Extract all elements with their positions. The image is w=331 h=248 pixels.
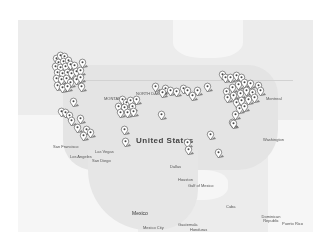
label-dominican-republic: Dominican Republic xyxy=(258,215,284,223)
label-las-vegas: Las Vegas xyxy=(95,150,114,154)
label-montreal: Montreal xyxy=(266,97,282,101)
map-marker-pin-icon[interactable] xyxy=(64,83,71,92)
map-marker-pin-icon[interactable] xyxy=(77,115,84,124)
label-puerto-rico: Puerto Rico xyxy=(282,222,303,226)
map-marker-pin-icon[interactable] xyxy=(78,83,85,92)
label-houston: Houston xyxy=(178,178,193,182)
map-marker-pin-icon[interactable] xyxy=(77,74,84,83)
map-marker-pin-icon[interactable] xyxy=(185,146,192,155)
map-marker-pin-icon[interactable] xyxy=(158,111,165,120)
border-line xyxy=(63,80,293,81)
label-mexico-city: Mexico City xyxy=(143,226,164,230)
map-marker-pin-icon[interactable] xyxy=(230,120,237,129)
map-marker-pin-icon[interactable] xyxy=(122,138,129,147)
map-marker-pin-icon[interactable] xyxy=(241,103,248,112)
map-marker-pin-icon[interactable] xyxy=(87,129,94,138)
label-san-diego: San Diego xyxy=(92,159,111,163)
label-mexico: Mexico xyxy=(132,211,148,216)
map-marker-pin-icon[interactable] xyxy=(152,83,159,92)
map-marker-pin-icon[interactable] xyxy=(173,88,180,97)
map-marker-pin-icon[interactable] xyxy=(130,108,137,117)
map-marker-pin-icon[interactable] xyxy=(215,149,222,158)
label-gulf-of-mexico: Gulf of Mexico xyxy=(188,184,214,188)
map-marker-pin-icon[interactable] xyxy=(251,94,258,103)
map-marker-pin-icon[interactable] xyxy=(194,87,201,96)
map-marker-pin-icon[interactable] xyxy=(207,131,214,140)
map-marker-pin-icon[interactable] xyxy=(70,98,77,107)
map-marker-pin-icon[interactable] xyxy=(133,96,140,105)
hudson-bay xyxy=(173,20,243,58)
map-marker-pin-icon[interactable] xyxy=(121,126,128,135)
label-washington: Washington xyxy=(263,138,284,142)
map-marker-pin-icon[interactable] xyxy=(257,87,264,96)
label-cuba: Cuba xyxy=(226,205,236,209)
map-marker-pin-icon[interactable] xyxy=(204,83,211,92)
label-dallas: Dallas xyxy=(170,165,181,169)
label-san-francisco: San Francisco xyxy=(53,145,79,149)
map-marker-pin-icon[interactable] xyxy=(159,89,166,98)
map-marker-pin-icon[interactable] xyxy=(80,132,87,141)
label-honduras: Honduras xyxy=(190,228,207,232)
label-los-angeles: Los Angeles xyxy=(70,155,92,159)
map-canvas[interactable]: United States Mexico Mexico City Cuba Do… xyxy=(18,20,313,232)
map-marker-pin-icon[interactable] xyxy=(117,109,124,118)
